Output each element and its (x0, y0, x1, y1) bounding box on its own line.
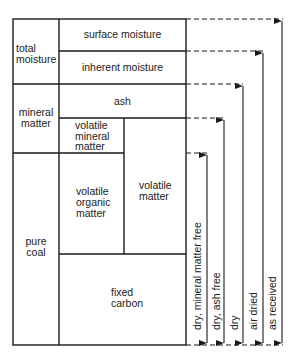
surface-moisture-label: surface moisture (59, 29, 186, 40)
total-moisture-label: total moisture (16, 43, 56, 65)
mineral-matter-label: mineral matter (13, 107, 59, 129)
pure-coal-label: pure coal (13, 236, 59, 258)
basis-dry-mineral-matter-free: dry, mineral matter free (191, 222, 203, 330)
fixed-carbon-label: fixed carbon (111, 287, 143, 309)
vm-line2: matter (139, 191, 172, 202)
basis-dry-ash-free: dry, ash free (210, 272, 222, 330)
basis-air-dried: air dried (247, 292, 259, 330)
basis-dry: dry (228, 315, 240, 330)
inherent-moisture-label: inherent moisture (59, 62, 186, 73)
fc-line2: carbon (111, 298, 143, 309)
volatile-mineral-matter-label: volatile mineral matter (75, 120, 109, 152)
vom-line3: matter (76, 208, 110, 219)
basis-as-received: as received (266, 276, 278, 330)
vmm-line1: volatile (75, 120, 109, 131)
total-moisture-line2: moisture (16, 54, 56, 65)
volatile-organic-matter-label: volatile organic matter (76, 186, 110, 219)
volatile-matter-label: volatile matter (139, 180, 172, 202)
mineral-matter-line2: matter (13, 118, 59, 129)
ash-label: ash (59, 96, 186, 107)
vmm-line3: matter (75, 141, 109, 152)
pure-coal-line2: coal (13, 247, 59, 258)
